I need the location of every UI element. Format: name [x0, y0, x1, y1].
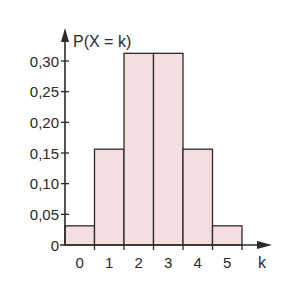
y-tick-label: 0,15	[30, 145, 59, 162]
y-tick-label: 0,05	[30, 206, 59, 223]
x-tick-label: 4	[194, 254, 202, 271]
y-tick-label: 0,30	[30, 53, 59, 70]
bar-k-3	[154, 53, 184, 245]
x-ticks: 012345	[76, 245, 242, 271]
probability-histogram: P(X = k) k 00,050,100,150,200,250,30 012…	[0, 0, 284, 290]
bar-k-5	[213, 226, 243, 245]
bar-k-0	[65, 226, 95, 245]
x-tick-label: 1	[105, 254, 113, 271]
bar-k-4	[183, 149, 213, 245]
x-tick-label: 3	[164, 254, 172, 271]
y-ticks: 00,050,100,150,200,250,30	[30, 53, 69, 254]
y-axis-title: P(X = k)	[73, 33, 131, 50]
x-tick-label: 5	[223, 254, 231, 271]
y-tick-label: 0,10	[30, 175, 59, 192]
x-tick-label: 2	[135, 254, 143, 271]
bars-group	[65, 53, 242, 245]
y-axis-arrow-icon	[61, 28, 69, 42]
bar-k-2	[124, 53, 154, 245]
y-tick-label: 0,25	[30, 83, 59, 100]
y-tick-label: 0,20	[30, 114, 59, 131]
x-axis-title: k	[258, 254, 267, 271]
x-tick-label: 0	[76, 254, 84, 271]
bar-k-1	[95, 149, 125, 245]
x-axis-arrow-icon	[257, 241, 272, 249]
y-tick-label: 0	[51, 237, 59, 254]
